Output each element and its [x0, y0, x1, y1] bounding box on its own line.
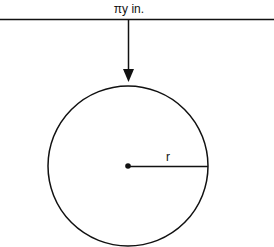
arrow-head-icon	[123, 69, 134, 82]
diagram-canvas: πy in. r	[0, 0, 274, 247]
radius-label: r	[166, 150, 170, 164]
circle-diagram: πy in. r	[0, 0, 274, 247]
top-label: πy in.	[114, 2, 144, 16]
